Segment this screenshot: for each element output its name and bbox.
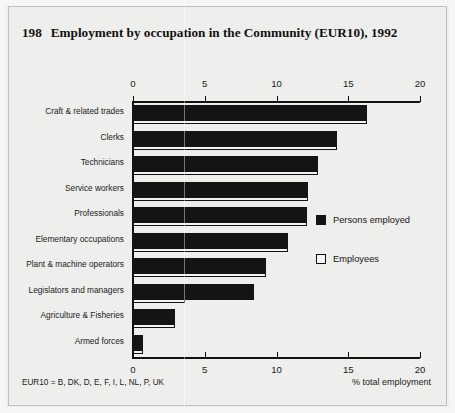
- category-label: Professionals: [74, 207, 124, 219]
- figure-panel: 198 Employment by occupation in the Comm…: [0, 0, 455, 413]
- bar-persons-employed: [133, 182, 308, 198]
- legend-item: Persons employed: [316, 215, 410, 225]
- bar-row: Craft & related trades: [133, 102, 420, 128]
- category-label: Craft & related trades: [45, 105, 124, 117]
- figure-footnote: EUR10 = B, DK, D, E, F, I, L, NL, P, UK: [22, 378, 164, 387]
- x-tick-label-bottom: 20: [415, 364, 426, 375]
- x-tick-label-bottom: 5: [202, 364, 207, 375]
- x-axis-label: % total employment: [352, 377, 431, 387]
- chart-legend: Persons employedEmployees: [316, 215, 410, 293]
- figure-title: 198 Employment by occupation in the Comm…: [22, 24, 422, 41]
- bar-persons-employed: [133, 309, 175, 325]
- x-tick-label-bottom: 15: [343, 364, 354, 375]
- bar-persons-employed: [133, 207, 307, 223]
- figure-number: 198: [22, 24, 42, 41]
- category-label: Agriculture & Fisheries: [41, 309, 124, 321]
- category-label: Technicians: [81, 156, 124, 168]
- bar-row: Service workers: [133, 179, 420, 205]
- legend-open-square-icon: [316, 254, 326, 264]
- category-label: Legislators and managers: [29, 284, 124, 296]
- x-tick-bottom: [420, 352, 421, 358]
- x-tick-label-bottom: 10: [271, 364, 282, 375]
- x-tick-label-top: 5: [202, 78, 207, 89]
- bar-row: Clerks: [133, 128, 420, 154]
- category-label: Clerks: [100, 131, 124, 143]
- bar-row: Agriculture & Fisheries: [133, 306, 420, 332]
- x-tick-label-bottom: 0: [130, 364, 135, 375]
- bar-row: Armed forces: [133, 332, 420, 358]
- bar-persons-employed: [133, 105, 367, 121]
- legend-label: Employees: [333, 254, 379, 264]
- bar-persons-employed: [133, 284, 254, 300]
- legend-item: Employees: [316, 254, 410, 264]
- figure-title-text: Employment by occupation in the Communit…: [51, 24, 422, 41]
- category-label: Service workers: [65, 182, 124, 194]
- bar-persons-employed: [133, 156, 318, 172]
- category-label: Plant & machine operators: [26, 258, 124, 270]
- x-tick-label-top: 20: [415, 78, 426, 89]
- x-tick-label-top: 0: [130, 78, 135, 89]
- x-tick-label-top: 15: [343, 78, 354, 89]
- bar-persons-employed: [133, 233, 288, 249]
- x-tick-label-top: 10: [271, 78, 282, 89]
- bar-persons-employed: [133, 335, 143, 351]
- bar-persons-employed: [133, 131, 337, 147]
- x-tick-top: [420, 96, 421, 102]
- legend-filled-square-icon: [316, 215, 326, 225]
- bar-row: Technicians: [133, 153, 420, 179]
- legend-label: Persons employed: [333, 215, 410, 225]
- category-label: Elementary occupations: [35, 233, 124, 245]
- bar-persons-employed: [133, 258, 266, 274]
- category-label: Armed forces: [75, 335, 124, 347]
